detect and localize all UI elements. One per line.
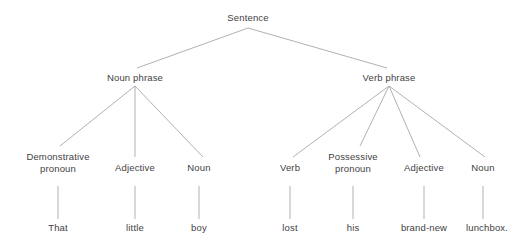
- sentence-parse-tree-diagram: Sentence Noun phrase Verb phrase Demonst…: [0, 0, 530, 251]
- tree-edges-layer: [0, 0, 530, 251]
- edge-verb-phrase-verb: [293, 86, 389, 157]
- leaf-word-his: his: [347, 222, 360, 234]
- leaf-word-boy: boy: [191, 222, 207, 234]
- leaf-word-lost: lost: [282, 222, 297, 234]
- edge-verb-phrase-adjective: [389, 86, 420, 157]
- leaf-word-lunchbox: lunchbox.: [466, 222, 508, 234]
- edge-noun-phrase-demonstrative-pronoun: [60, 86, 135, 146]
- edge-verb-phrase-noun: [389, 86, 485, 157]
- leaf-word-brand-new: brand-new: [401, 222, 447, 234]
- edge-noun-phrase-noun: [135, 86, 203, 157]
- edge-verb-phrase-possessive-pronoun: [360, 86, 389, 146]
- edge-sentence-noun-phrase: [137, 28, 248, 68]
- leaf-word-little: little: [126, 222, 144, 234]
- edge-sentence-verb-phrase: [248, 28, 387, 68]
- leaf-word-that: That: [48, 222, 68, 234]
